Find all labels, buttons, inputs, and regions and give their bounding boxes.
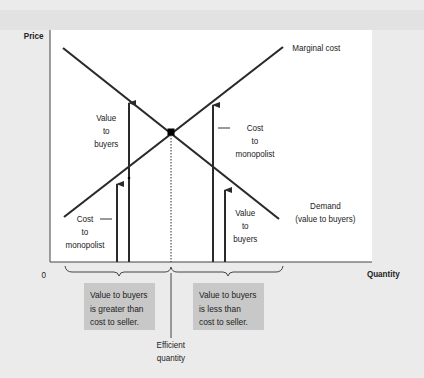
left-box-line3: cost to seller.	[90, 315, 142, 329]
right-value-label: Value to buyers	[233, 206, 257, 245]
left-value-line1: Value	[94, 111, 118, 124]
right-cost-line1: Cost	[235, 121, 274, 134]
left-bracket	[65, 266, 171, 276]
left-dot	[128, 177, 131, 180]
right-cost-label: Cost to monopolist	[235, 121, 274, 160]
marginal-cost-label: Marginal cost	[292, 41, 340, 54]
left-cost-line1: Cost	[65, 212, 104, 225]
left-value-line2: to	[94, 124, 118, 137]
right-cost-line3: monopolist	[235, 147, 274, 160]
efficient-quantity-label: Efficient quantity	[157, 338, 186, 364]
left-value-label: Value to buyers	[94, 111, 118, 150]
demand-label: Demand (value to buyers)	[295, 199, 355, 225]
left-cost-label: Cost to monopolist	[65, 212, 104, 251]
left-value-line3: buyers	[94, 137, 118, 150]
efficient-line1: Efficient	[157, 338, 186, 351]
right-cost-line2: to	[235, 134, 274, 147]
origin-label: 0	[41, 268, 46, 281]
right-bracket	[171, 266, 283, 276]
y-axis-label: Price	[24, 29, 44, 42]
demand-label-line1: Demand	[295, 199, 355, 212]
right-value-line3: buyers	[233, 232, 257, 245]
efficient-line2: quantity	[157, 351, 186, 364]
left-box-line2: is greater than	[90, 302, 142, 316]
right-box-line1: Value to buyers	[199, 288, 251, 302]
left-box-line1: Value to buyers	[90, 288, 142, 302]
left-cost-line2: to	[65, 225, 104, 238]
equilibrium-point	[168, 129, 175, 136]
left-cost-line3: monopolist	[65, 238, 104, 251]
demand-label-line2: (value to buyers)	[295, 212, 355, 225]
right-box-line3: cost to seller.	[199, 315, 251, 329]
right-value-line1: Value	[233, 206, 257, 219]
right-box-line2: is less than	[199, 302, 251, 316]
left-summary-box: Value to buyers is greater than cost to …	[84, 283, 155, 330]
right-value-line2: to	[233, 219, 257, 232]
right-summary-box: Value to buyers is less than cost to sel…	[193, 283, 264, 330]
x-axis-label: Quantity	[367, 267, 400, 280]
